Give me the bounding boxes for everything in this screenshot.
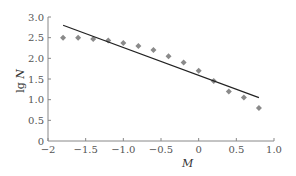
x-tick-label: 1.0 bbox=[266, 144, 282, 155]
y-tick-label: 0.5 bbox=[28, 115, 44, 126]
data-point bbox=[226, 88, 232, 94]
data-point bbox=[135, 43, 141, 49]
y-tick-label: 3.0 bbox=[28, 12, 44, 23]
x-tick-label: −1.0 bbox=[111, 144, 135, 155]
data-point bbox=[241, 95, 247, 101]
data-point bbox=[75, 35, 81, 41]
x-tick-label: 0.5 bbox=[228, 144, 244, 155]
data-point bbox=[256, 105, 262, 111]
y-tick-label: 2.5 bbox=[28, 32, 44, 43]
data-point bbox=[181, 59, 187, 65]
data-point bbox=[196, 68, 202, 74]
data-point bbox=[60, 35, 66, 41]
x-tick-label: 0 bbox=[195, 144, 201, 155]
plot-area bbox=[60, 25, 262, 111]
chart: −2−1.5−1.0−0.500.51.000.51.01.52.02.53.0… bbox=[0, 0, 296, 176]
x-tick-label: −0.5 bbox=[149, 144, 173, 155]
data-point bbox=[150, 47, 156, 53]
y-axis-label: lg N bbox=[14, 69, 27, 93]
fit-line bbox=[63, 25, 259, 97]
x-axis-label: M bbox=[181, 157, 194, 170]
y-tick-label: 1.5 bbox=[28, 74, 44, 85]
data-point bbox=[120, 40, 126, 46]
y-tick-label: 0 bbox=[38, 136, 44, 147]
data-point bbox=[166, 53, 172, 59]
y-tick-label: 2.0 bbox=[28, 53, 44, 64]
y-tick-label: 1.0 bbox=[28, 94, 44, 105]
x-tick-label: −1.5 bbox=[74, 144, 98, 155]
